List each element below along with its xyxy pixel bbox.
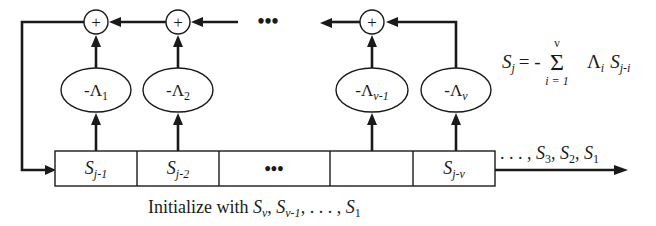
register-to-multiplier-arrows — [91, 113, 461, 151]
initialize-caption: Initialize with Sν, Sν-1, . . . , S1 — [148, 197, 361, 220]
arrowhead-icon — [367, 113, 377, 125]
arrowhead-icon — [173, 113, 183, 125]
multiplier-nu: -Λν — [421, 68, 491, 112]
multiplier-1: -Λ1 — [61, 68, 131, 112]
plus-icon: + — [173, 13, 183, 32]
plus-icon: + — [91, 13, 101, 32]
plus-icon: + — [367, 13, 377, 32]
arrowhead-icon — [386, 17, 398, 27]
arrowhead-icon — [614, 165, 628, 175]
shift-register: Sj-1 Sj-2 ••• Sj-ν — [55, 151, 495, 186]
arrowhead-icon — [191, 17, 203, 27]
adder-chain — [109, 17, 456, 68]
multiplier-nu-minus-1: -Λν-1 — [336, 68, 408, 112]
output-path — [495, 165, 628, 175]
arrowhead-icon — [173, 35, 183, 47]
svg-text:ΛiSj-i: ΛiSj-i — [587, 51, 630, 75]
svg-text:Sj= -: Sj= - — [502, 51, 541, 75]
arrowhead-icon — [367, 35, 377, 47]
adder-1: + — [84, 10, 108, 34]
chain-ellipsis: ••• — [257, 10, 278, 32]
sum-lower-limit: i = 1 — [545, 74, 568, 88]
adder-3: + — [360, 10, 384, 34]
multiplier-to-adder-arrows — [91, 35, 377, 68]
sum-upper-limit: ν — [554, 36, 560, 50]
arrowhead-icon — [91, 113, 101, 125]
output-sequence-label: . . . , S3, S2, S1 — [500, 143, 599, 166]
recurrence-formula: Sj= - ν Σ i = 1 ΛiSj-i — [502, 36, 630, 88]
arrowhead-icon — [91, 35, 101, 47]
arrowhead-icon — [320, 18, 332, 28]
adder-2: + — [166, 10, 190, 34]
lfsr-diagram: ••• + + + -Λ1 -Λ2 -Λν-1 — [0, 0, 656, 226]
arrowhead-icon — [109, 17, 121, 27]
sum-symbol: Σ — [550, 49, 564, 75]
register-cell-ellipsis: ••• — [265, 159, 284, 179]
arrowhead-icon — [451, 113, 461, 125]
multiplier-2: -Λ2 — [143, 68, 213, 112]
